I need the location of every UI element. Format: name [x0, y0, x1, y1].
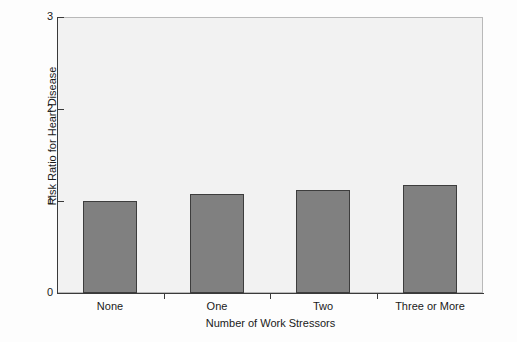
- x-tick-separator-1: [164, 294, 165, 299]
- y-axis-title-wrap: Risk Ratio for Heart Disease: [26, 0, 40, 310]
- y-tick-2: [58, 109, 64, 110]
- x-tick-label-one: One: [207, 300, 228, 313]
- bar-two: [296, 190, 350, 293]
- x-tick-separator-3: [377, 294, 378, 299]
- y-tick-0: [58, 293, 64, 294]
- x-tick-label-three-or-more: Three or More: [395, 300, 465, 313]
- y-axis-title: Risk Ratio for Heart Disease: [46, 26, 58, 246]
- bar-chart-figure: 3 2 1 0 Risk Ratio for Heart Disease Non…: [0, 0, 517, 342]
- bar-three-or-more: [403, 185, 457, 293]
- x-tick-label-none: None: [97, 300, 123, 313]
- y-tick-1: [58, 201, 64, 202]
- x-axis-title: Number of Work Stressors: [57, 317, 484, 330]
- bar-none: [83, 201, 137, 293]
- x-tick-separator-2: [270, 294, 271, 299]
- x-tick-label-two: Two: [313, 300, 333, 313]
- bar-one: [190, 194, 244, 293]
- y-tick-3: [58, 17, 64, 18]
